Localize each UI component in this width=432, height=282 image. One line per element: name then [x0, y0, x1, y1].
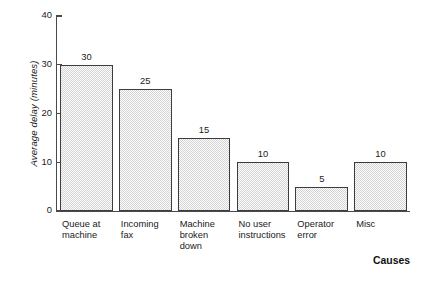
x-axis-category-label-line: Operator	[297, 219, 352, 230]
x-axis-category-label: Machinebrokendown	[180, 219, 235, 251]
bar-group: 30	[57, 16, 116, 211]
bar[interactable]	[119, 89, 172, 211]
bar-value-label: 10	[234, 148, 293, 159]
x-axis-category-label-line: No user	[239, 219, 294, 230]
bar-group: 5	[292, 16, 351, 211]
x-axis-category-label-line: Machine	[180, 219, 235, 230]
bar[interactable]	[354, 162, 407, 211]
x-axis-category-label-line: fax	[121, 230, 176, 241]
x-axis-category-label: No userinstructions	[239, 219, 294, 241]
x-axis-category-label-line: instructions	[239, 230, 294, 241]
bar-value-label: 25	[116, 75, 175, 86]
x-axis-category-label: Incomingfax	[121, 219, 176, 241]
y-axis-title: Average delay (minutes)	[28, 34, 39, 194]
x-axis-category-label-line: down	[180, 241, 235, 252]
bar[interactable]	[237, 162, 290, 211]
y-axis-tick-label: 0	[47, 204, 52, 215]
bar-value-label: 15	[175, 124, 234, 135]
x-axis-category-label-line: broken	[180, 230, 235, 241]
x-axis-category-label-line: error	[297, 230, 352, 241]
bar-value-label: 5	[292, 173, 351, 184]
x-axis-title: Causes	[373, 255, 410, 266]
x-axis-category-label-line: Misc	[356, 219, 411, 230]
bar[interactable]	[60, 65, 113, 211]
bar-group: 10	[351, 16, 410, 211]
bar-value-label: 30	[57, 51, 116, 62]
x-axis-category-label-line: Queue at	[62, 219, 117, 230]
y-axis-tick-label: 20	[42, 107, 52, 118]
y-axis-tick-label: 40	[42, 9, 52, 20]
bar-group: 15	[175, 16, 234, 211]
x-axis-category-label: Misc	[356, 219, 411, 230]
x-axis-category-label-line: machine	[62, 230, 117, 241]
bar[interactable]	[295, 187, 348, 211]
bar-chart: Average delay (minutes) 010203040 Causes…	[0, 0, 432, 282]
x-axis-category-label: Operatorerror	[297, 219, 352, 241]
bar-group: 10	[234, 16, 293, 211]
plot-area: 30251510510	[57, 16, 410, 211]
y-axis-tick-label: 30	[42, 58, 52, 69]
bar-value-label: 10	[351, 148, 410, 159]
x-axis-category-label: Queue atmachine	[62, 219, 117, 241]
bar[interactable]	[178, 138, 231, 211]
x-axis-category-label-line: Incoming	[121, 219, 176, 230]
x-axis-line	[56, 211, 410, 212]
y-axis-tick-label: 10	[42, 156, 52, 167]
bar-group: 25	[116, 16, 175, 211]
